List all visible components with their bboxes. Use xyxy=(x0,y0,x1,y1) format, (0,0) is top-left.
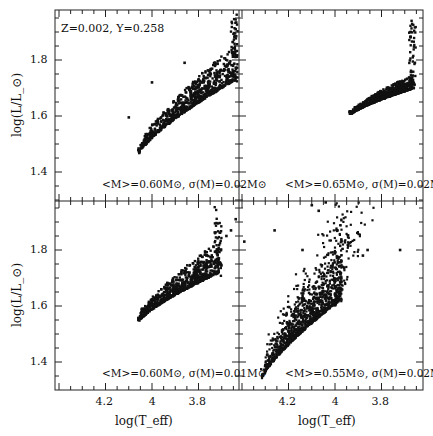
panel-tl-mass-label: <M>=0.60M⊙, σ(M)=0.02M⊙ xyxy=(102,178,267,190)
y-tick-label: 1.6 xyxy=(30,299,48,312)
y-tick-label: 1.4 xyxy=(30,355,48,368)
x-tick-label: 4.2 xyxy=(96,395,114,408)
x-tick-label: 4.2 xyxy=(279,395,297,408)
panel-br-mass-label: <M>=0.55M⊙, σ(M)=0.02M⊙ xyxy=(285,367,433,379)
x-tick-label: 3.8 xyxy=(189,395,207,408)
y-axis-label-bottom: log(L/L_⊙) xyxy=(10,260,24,330)
y-tick-label: 1.4 xyxy=(30,165,48,178)
x-axis-label-right: log(T_eff) xyxy=(298,414,356,428)
panel-bl-mass-label: <M>=0.60M⊙, σ(M)=0.01M⊙ xyxy=(102,367,267,379)
y-tick-label: 1.6 xyxy=(30,109,48,122)
y-axis-label-top: log(L/L_⊙) xyxy=(10,70,24,140)
x-axis-label-left: log(T_eff) xyxy=(115,414,173,428)
x-tick-label: 4 xyxy=(332,395,339,408)
x-tick-label: 4 xyxy=(149,395,156,408)
x-tick-label: 3.8 xyxy=(372,395,390,408)
panel-tl-annotation-top: Z=0.002, Y=0.258 xyxy=(61,22,164,35)
axes xyxy=(55,10,423,390)
y-tick-label: 1.8 xyxy=(30,53,48,66)
y-tick-label: 1.8 xyxy=(30,243,48,256)
scatter-points xyxy=(128,14,417,380)
panel-tr-mass-label: <M>=0.65M⊙, σ(M)=0.02M⊙ xyxy=(285,178,433,190)
